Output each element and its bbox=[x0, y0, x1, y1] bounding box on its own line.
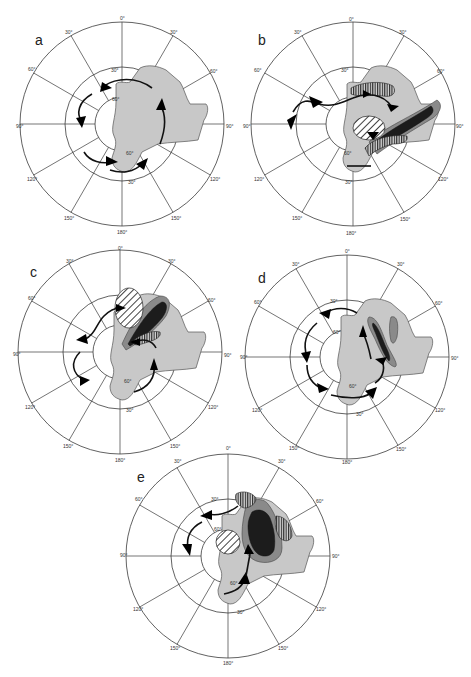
lon-label: 120° bbox=[133, 606, 143, 612]
lon-label: 90° bbox=[226, 123, 234, 129]
lon-label: 0° bbox=[349, 16, 354, 22]
lon-label: 150° bbox=[292, 215, 302, 221]
lat-label: 30° bbox=[128, 179, 136, 185]
lon-label: 150° bbox=[170, 443, 180, 449]
lat-label: 30° bbox=[211, 496, 219, 502]
landmass bbox=[112, 66, 208, 172]
panel-label-d: d bbox=[258, 270, 266, 286]
lon-label: 150° bbox=[400, 216, 410, 222]
moderate-anomaly-region bbox=[390, 317, 398, 343]
lon-label: 30° bbox=[278, 458, 286, 464]
figure: a b c d e 0° 30° 30° 60° 60° 90° 90° 120… bbox=[0, 0, 471, 677]
panel-c bbox=[18, 250, 222, 454]
lon-label: 90° bbox=[240, 354, 248, 360]
lat-label: 60° bbox=[344, 150, 352, 156]
lon-label: 60° bbox=[135, 496, 143, 502]
lat-label: 60° bbox=[333, 329, 341, 335]
lon-label: 120° bbox=[435, 407, 445, 413]
lat-label: 60° bbox=[230, 580, 238, 586]
lat-label: 60° bbox=[349, 383, 357, 389]
lon-label: 150° bbox=[278, 645, 288, 651]
lat-label: 30° bbox=[330, 298, 338, 304]
lat-label: 60° bbox=[126, 150, 134, 156]
arrowhead-icon bbox=[76, 116, 86, 128]
lon-label: 90° bbox=[120, 552, 128, 558]
lon-label: 60° bbox=[210, 68, 218, 74]
lat-label: 30° bbox=[126, 407, 134, 413]
lat-label: 30° bbox=[341, 67, 349, 73]
arrowhead-icon bbox=[80, 376, 90, 386]
lon-label: 30° bbox=[174, 458, 182, 464]
lon-label: 150° bbox=[396, 446, 406, 452]
panel-e bbox=[126, 454, 330, 658]
lon-label: 120° bbox=[316, 606, 326, 612]
lon-label: 120° bbox=[438, 176, 448, 182]
lon-label: 60° bbox=[28, 295, 36, 301]
lat-label: 60° bbox=[214, 526, 222, 532]
lat-label: 60° bbox=[112, 96, 120, 102]
lon-label: 60° bbox=[208, 297, 216, 303]
lon-label: 90° bbox=[16, 123, 24, 129]
lon-label: 30° bbox=[292, 261, 300, 267]
lat-label: 30° bbox=[345, 179, 353, 185]
lon-label: 150° bbox=[63, 443, 73, 449]
lon-label: 150° bbox=[171, 215, 181, 221]
lon-label: 120° bbox=[210, 176, 220, 182]
lon-label: 120° bbox=[254, 176, 264, 182]
lon-label: 0° bbox=[226, 445, 231, 451]
lon-label: 120° bbox=[27, 176, 37, 182]
arrowhead-icon bbox=[182, 544, 192, 556]
lon-label: 30° bbox=[168, 258, 176, 264]
lon-label: 60° bbox=[254, 67, 262, 73]
arrowhead-icon bbox=[287, 114, 297, 130]
panel-a bbox=[20, 22, 224, 226]
circulation-arrow bbox=[74, 352, 84, 380]
lon-label: 30° bbox=[65, 29, 73, 35]
arrowhead-icon bbox=[319, 309, 331, 319]
lon-label: 180° bbox=[342, 459, 352, 465]
hatched-circle bbox=[216, 530, 240, 554]
lon-label: 90° bbox=[451, 355, 459, 361]
panel-d bbox=[245, 255, 449, 459]
lon-label: 180° bbox=[117, 229, 127, 235]
panel-label-a: a bbox=[35, 32, 43, 48]
lat-label: 30° bbox=[237, 609, 245, 615]
lon-label: 90° bbox=[224, 352, 232, 358]
lon-label: 90° bbox=[13, 351, 21, 357]
lon-label: 30° bbox=[399, 29, 407, 35]
arrowhead-icon bbox=[309, 96, 323, 108]
lon-label: 30° bbox=[170, 29, 178, 35]
lon-label: 180° bbox=[223, 660, 233, 666]
lon-label: 150° bbox=[170, 645, 180, 651]
panel-label-e: e bbox=[137, 469, 145, 485]
arrowhead-icon bbox=[76, 334, 88, 344]
lon-label: 0° bbox=[118, 245, 123, 251]
lat-label: 60° bbox=[124, 378, 132, 384]
lon-label: 120° bbox=[252, 407, 262, 413]
lon-label: 30° bbox=[66, 258, 74, 264]
panel-label-c: c bbox=[30, 264, 37, 280]
lon-label: 30° bbox=[397, 261, 405, 267]
lon-label: 0° bbox=[345, 248, 350, 254]
circulation-arrow bbox=[208, 506, 238, 515]
lon-label: 30° bbox=[294, 29, 302, 35]
lon-label: 180° bbox=[115, 457, 125, 463]
lon-label: 60° bbox=[435, 300, 443, 306]
lon-label: 180° bbox=[346, 230, 356, 236]
lat-label: 30° bbox=[111, 67, 119, 73]
panel-label-b: b bbox=[258, 32, 266, 48]
hatched-circle bbox=[353, 116, 385, 140]
lon-label: 0° bbox=[120, 15, 125, 21]
lon-label: 90° bbox=[243, 123, 251, 129]
lon-label: 120° bbox=[25, 404, 35, 410]
lon-label: 90° bbox=[332, 553, 340, 559]
lon-label: 120° bbox=[208, 404, 218, 410]
lon-label: 60° bbox=[437, 68, 445, 74]
lon-label: 60° bbox=[316, 498, 324, 504]
panel-b bbox=[251, 22, 455, 226]
arrowhead-icon bbox=[365, 387, 377, 399]
lon-label: 150° bbox=[289, 445, 299, 451]
lon-label: 150° bbox=[64, 215, 74, 221]
lon-label: 60° bbox=[254, 299, 262, 305]
lon-label: 60° bbox=[28, 66, 36, 72]
